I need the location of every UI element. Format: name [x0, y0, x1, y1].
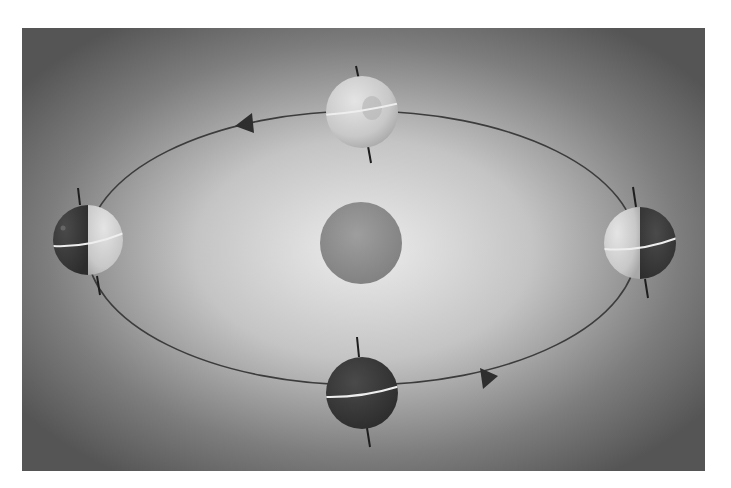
sun [320, 202, 402, 284]
globe [326, 76, 398, 148]
orbit-diagram [22, 28, 705, 471]
orbit-diagram-panel [22, 28, 705, 471]
globe [326, 357, 398, 429]
